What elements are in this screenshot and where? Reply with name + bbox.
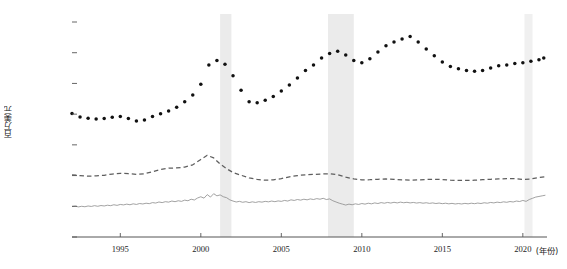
plot-area: [0, 0, 567, 269]
x-axis-tick-label: 2015: [434, 244, 451, 254]
x-axis-tick-label: 2000: [192, 244, 209, 254]
chart-root: 020 00040 00060 00080 000100 000120 0001…: [0, 0, 567, 269]
x-axis-tick-label: 1995: [112, 244, 129, 254]
x-axis-tick-label: 2005: [273, 244, 290, 254]
recession-2020: [524, 14, 532, 237]
series-solid: [72, 194, 545, 207]
recession-2001: [220, 14, 231, 237]
series-dotted: [70, 35, 545, 123]
series-group: [70, 35, 545, 207]
axes-group: [72, 22, 547, 237]
series-dashed: [72, 155, 545, 180]
x-axis-unit-label: (年份): [536, 244, 559, 256]
x-axis-tick-label: 2020: [514, 244, 531, 254]
chart-canvas: [0, 0, 567, 269]
y-axis-title: 百万美元: [5, 106, 17, 138]
x-axis-tick-label: 2010: [353, 244, 370, 254]
